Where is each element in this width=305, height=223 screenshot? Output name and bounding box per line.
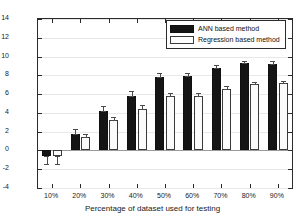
y-axis-tick xyxy=(38,38,42,39)
error-bar-cap xyxy=(101,106,106,107)
error-bar-cap xyxy=(44,156,49,157)
error-bar-cap xyxy=(168,96,173,97)
y-axis-tick xyxy=(288,150,292,151)
x-axis-tick xyxy=(52,184,53,188)
x-axis-tick xyxy=(109,184,110,188)
y-axis-tick xyxy=(38,188,42,189)
legend-label-ann: ANN based method xyxy=(198,25,259,33)
error-bar-cap xyxy=(281,81,286,82)
bar-regression-90 xyxy=(279,83,288,150)
y-axis-tick xyxy=(288,38,292,39)
error-bar-cap xyxy=(129,91,134,92)
error-bar-cap xyxy=(157,73,162,74)
y-axis-tick xyxy=(288,57,292,58)
x-axis-tick-label: 50% xyxy=(149,192,179,200)
zero-axis-line xyxy=(38,150,292,151)
y-axis-tick-label: -2 xyxy=(0,164,9,171)
bar-regression-20 xyxy=(81,137,90,150)
y-axis-tick xyxy=(38,94,42,95)
y-axis-tick xyxy=(288,113,292,114)
bar-ann-50 xyxy=(155,77,164,151)
gridline xyxy=(38,169,292,170)
x-axis-tick-label: 90% xyxy=(262,192,292,200)
error-bar-cap xyxy=(129,96,134,97)
error-bar-cap xyxy=(140,109,145,110)
error-bar-cap xyxy=(270,61,275,62)
gridline xyxy=(38,57,292,58)
gridline xyxy=(38,188,292,189)
y-axis-tick-label: 4 xyxy=(0,108,9,115)
error-bar-cap xyxy=(111,117,116,118)
outlined-white-swatch xyxy=(170,36,194,44)
error-bar-cap xyxy=(83,137,88,138)
error-bar-cap xyxy=(242,63,247,64)
y-axis-tick xyxy=(288,188,292,189)
y-axis-tick-label: 14 xyxy=(0,14,9,21)
error-bar-cap xyxy=(224,89,229,90)
x-axis-tick xyxy=(250,184,251,188)
y-axis-tick xyxy=(288,132,292,133)
x-axis-tick xyxy=(137,19,138,23)
error-bar-cap xyxy=(224,86,229,87)
error-bar-cap xyxy=(185,73,190,74)
bar-regression-30 xyxy=(109,120,118,150)
error-bar-cap xyxy=(83,134,88,135)
filled-black-swatch xyxy=(170,25,194,33)
y-axis-tick-label: -4 xyxy=(0,183,9,190)
bar-regression-50 xyxy=(166,96,175,150)
error-bar-cap xyxy=(214,68,219,69)
error-bar-cap xyxy=(270,64,275,65)
error-bar-cap xyxy=(252,84,257,85)
x-axis-tick xyxy=(221,184,222,188)
y-axis-tick xyxy=(38,169,42,170)
x-axis-tick xyxy=(193,184,194,188)
y-axis-tick xyxy=(288,19,292,20)
bar-regression-70 xyxy=(222,89,231,150)
error-bar-cap xyxy=(55,164,60,165)
error-bar-cap xyxy=(281,83,286,84)
legend-item-ann: ANN based method xyxy=(170,24,282,34)
x-axis-tick xyxy=(137,184,138,188)
bar-ann-60 xyxy=(183,76,192,150)
y-axis-tick xyxy=(288,169,292,170)
bar-ann-80 xyxy=(240,63,249,150)
x-axis-tick-label: 70% xyxy=(205,192,235,200)
error-bar-line xyxy=(57,156,58,164)
bar-ann-30 xyxy=(99,111,108,151)
error-bar-cap xyxy=(111,120,116,121)
x-axis-tick xyxy=(80,184,81,188)
error-bar-cap xyxy=(55,156,60,157)
y-axis-tick-label: 12 xyxy=(0,33,9,40)
error-bar-line xyxy=(47,156,48,164)
error-bar-cap xyxy=(242,61,247,62)
y-axis-tick xyxy=(288,94,292,95)
y-axis-tick xyxy=(38,75,42,76)
error-bar-cap xyxy=(196,96,201,97)
error-bar-cap xyxy=(196,93,201,94)
legend-label-regression: Regression based method xyxy=(198,36,280,44)
y-axis-tick-label: 2 xyxy=(0,127,9,134)
error-bar-cap xyxy=(73,129,78,130)
x-axis-tick-label: 30% xyxy=(93,192,123,200)
x-axis-tick xyxy=(278,184,279,188)
error-bar-cap xyxy=(168,93,173,94)
chart-legend: ANN based method Regression based method xyxy=(166,20,286,49)
bar-regression-60 xyxy=(194,96,203,151)
error-bar-cap xyxy=(185,76,190,77)
error-bar-cap xyxy=(73,134,78,135)
error-mean-bar-chart: Error Mean Percentage of dataset used fo… xyxy=(0,0,305,223)
bar-regression-40 xyxy=(138,109,147,151)
error-bar-cap xyxy=(44,164,49,165)
x-axis-tick-label: 80% xyxy=(234,192,264,200)
y-axis-tick xyxy=(288,75,292,76)
y-axis-tick-label: 0 xyxy=(0,145,9,152)
error-bar-cap xyxy=(252,82,257,83)
x-axis-tick-label: 60% xyxy=(177,192,207,200)
y-axis-tick-label: 6 xyxy=(0,89,9,96)
y-axis-tick xyxy=(38,113,42,114)
legend-item-regression: Regression based method xyxy=(170,35,282,45)
x-axis-tick-label: 20% xyxy=(64,192,94,200)
bar-ann-20 xyxy=(71,134,80,151)
y-axis-tick xyxy=(38,57,42,58)
x-axis-tick xyxy=(80,19,81,23)
